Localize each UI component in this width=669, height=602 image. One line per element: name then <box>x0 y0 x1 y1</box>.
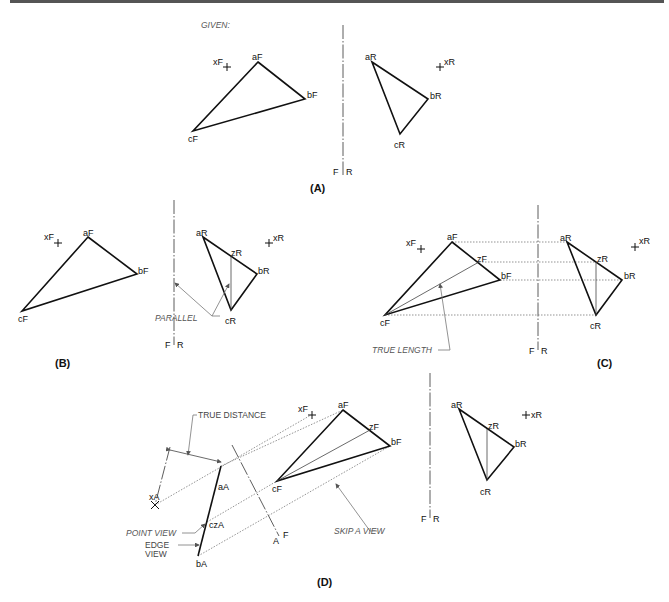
label-xf: xF <box>298 404 309 414</box>
panel-d: F R A F aA czA bA xA TRUE DISTANCE POINT… <box>126 373 543 588</box>
label-bf: bF <box>138 266 149 276</box>
front-view-triangle <box>22 237 137 311</box>
panel-c: F R aF bF cF zF xF aR bR cR zR xR TRUE L… <box>372 205 651 369</box>
point-x-right-icon <box>631 243 639 251</box>
panel-a: GIVEN: F R aF bF cF xF aR bR cR xR (A) <box>188 20 456 194</box>
label-br: bR <box>258 266 270 276</box>
label-cf: cF <box>380 318 391 328</box>
label-cza: czA <box>209 520 224 530</box>
skip-a-view-leader <box>336 484 377 531</box>
label-cr: cR <box>480 487 492 497</box>
point-x-front-icon <box>308 411 316 419</box>
fold-label-f2: F <box>283 530 289 540</box>
edge-view-note-2: VIEW <box>145 549 167 559</box>
label-cf: cF <box>188 134 199 144</box>
given-label: GIVEN: <box>201 20 230 30</box>
label-br: bR <box>515 439 527 449</box>
fold-label-f: F <box>165 340 171 350</box>
label-xf: xF <box>406 238 417 248</box>
panel-b: F R aF bF cF xF aR bR cR zR xR PARALLEL … <box>18 200 285 369</box>
fold-label-f: F <box>421 514 427 524</box>
right-view-triangle <box>567 242 622 315</box>
label-xr: xR <box>273 233 285 243</box>
fold-label-r: R <box>346 167 353 177</box>
true-distance-leader <box>188 415 197 455</box>
label-ar: aR <box>365 52 377 62</box>
line-cz-true-length <box>277 430 370 481</box>
right-view-triangle <box>203 237 257 310</box>
caption-a: (A) <box>310 182 326 194</box>
label-br: bR <box>430 91 442 101</box>
label-af: aF <box>83 228 94 238</box>
label-cr: cR <box>225 316 237 326</box>
label-cr: cR <box>394 140 406 150</box>
fold-label-f: F <box>333 167 339 177</box>
caption-d: (D) <box>317 576 333 588</box>
label-xf: xF <box>213 57 224 67</box>
caption-c: (C) <box>597 357 613 369</box>
label-ar: aR <box>451 400 463 410</box>
label-aa: aA <box>218 482 229 492</box>
fold-label-a: A <box>273 536 279 546</box>
caption-b: (B) <box>55 357 71 369</box>
true-distance-dimension <box>170 450 221 462</box>
label-zf: zF <box>369 422 380 432</box>
label-ar: aR <box>196 228 208 238</box>
label-ar: aR <box>560 233 572 243</box>
label-bf: bF <box>501 271 512 281</box>
label-zr: zR <box>597 254 609 264</box>
point-view-note: POINT VIEW <box>126 528 177 538</box>
front-view-triangle <box>385 242 500 315</box>
distance-extension-x <box>155 447 170 505</box>
label-zf: zF <box>477 254 488 264</box>
right-view-triangle <box>459 409 514 480</box>
true-length-note: TRUE LENGTH <box>372 345 433 355</box>
point-x-front-icon <box>54 239 62 247</box>
true-length-leader <box>438 284 450 350</box>
label-cr: cR <box>590 321 602 331</box>
label-af: aF <box>338 400 349 410</box>
label-af: aF <box>252 52 263 62</box>
point-x-right-icon <box>436 63 444 71</box>
skip-a-view-note: SKIP A VIEW <box>334 526 386 536</box>
projection-line-x <box>155 415 311 505</box>
label-bf: bF <box>391 437 402 447</box>
edge-view-line <box>198 466 221 556</box>
true-distance-note: TRUE DISTANCE <box>198 410 266 420</box>
front-view-triangle <box>277 410 390 481</box>
point-x-front-icon <box>417 245 425 253</box>
label-br: bR <box>624 271 636 281</box>
label-xr: xR <box>444 57 456 67</box>
label-xf: xF <box>44 232 55 242</box>
point-x-right-icon <box>522 411 530 419</box>
label-af: aF <box>447 232 458 242</box>
point-x-right-icon <box>265 239 273 247</box>
fold-label-r: R <box>541 346 548 356</box>
descriptive-geometry-figure: GIVEN: F R aF bF cF xF aR bR cR xR (A) F… <box>0 0 669 602</box>
right-view-triangle <box>372 62 428 134</box>
label-xr: xR <box>639 236 651 246</box>
label-zr: zR <box>231 248 243 258</box>
point-view-leader <box>182 524 205 533</box>
line-cz-true-length <box>385 262 479 315</box>
label-ba: bA <box>196 559 207 569</box>
front-view-triangle <box>193 62 305 131</box>
parallel-leader-1 <box>175 283 220 316</box>
label-xr: xR <box>531 410 543 420</box>
fold-label-r: R <box>433 514 440 524</box>
label-cf: cF <box>18 314 29 324</box>
fold-label-r: R <box>177 340 184 350</box>
label-zr: zR <box>488 421 500 431</box>
parallel-note: PARALLEL <box>155 313 198 323</box>
point-x-front-icon <box>223 63 231 71</box>
fold-label-f: F <box>529 346 535 356</box>
label-bf: bF <box>307 90 318 100</box>
label-cf: cF <box>272 484 283 494</box>
